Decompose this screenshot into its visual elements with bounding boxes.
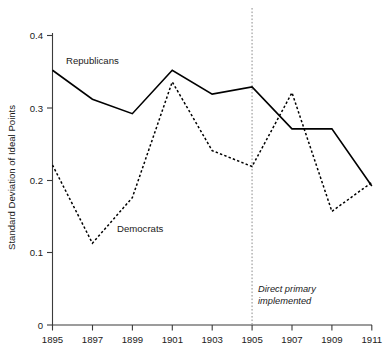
series-label-democrats: Democrats [117, 223, 164, 234]
y-axis-title: Standard Deviation of Ideal Points [6, 105, 17, 250]
x-tick-label-4: 1903 [202, 334, 223, 345]
chart-container: 0 0.1 0.2 0.3 0.4 1895 1897 1899 1901 19… [0, 0, 390, 359]
x-tick-label-5: 1905 [241, 334, 262, 345]
y-tick-label-4: 0.4 [30, 30, 44, 41]
x-tick-label-7: 1909 [321, 334, 342, 345]
y-tick-label-3: 0.3 [30, 103, 43, 114]
x-tick-label-3: 1901 [162, 334, 183, 345]
ideal-points-line-chart: 0 0.1 0.2 0.3 0.4 1895 1897 1899 1901 19… [0, 0, 390, 359]
annotation-line-2: implemented [258, 296, 312, 306]
x-tick-label-2: 1899 [122, 334, 143, 345]
x-tick-label-1: 1897 [82, 334, 103, 345]
y-tick-label-1: 0.1 [30, 247, 43, 258]
y-tick-label-0: 0 [38, 320, 43, 331]
annotation-line-1: Direct primary [258, 284, 317, 294]
x-axis-ticks: 1895 1897 1899 1901 1903 1905 1907 1909 … [42, 325, 382, 345]
x-tick-label-6: 1907 [281, 334, 302, 345]
x-tick-label-0: 1895 [42, 334, 63, 345]
y-axis-ticks: 0 0.1 0.2 0.3 0.4 [30, 30, 53, 331]
series-line-democrats [53, 82, 372, 243]
y-tick-label-2: 0.2 [30, 175, 43, 186]
x-tick-label-8: 1911 [361, 334, 382, 345]
series-line-republicans [53, 70, 372, 186]
series-label-republicans: Republicans [66, 55, 119, 66]
